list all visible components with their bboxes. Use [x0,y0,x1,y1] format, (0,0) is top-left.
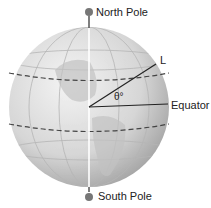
equator-label: Equator [171,100,210,111]
south-pole-pin-icon [85,193,93,201]
north-pole-pin-icon [85,8,93,16]
north-pole-label: North Pole [96,7,148,18]
latitude-point-label: L [160,55,166,66]
south-pole-label: South Pole [98,191,152,202]
angle-label: θ° [114,92,124,102]
